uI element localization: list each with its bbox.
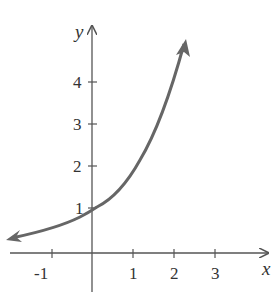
- y-tick-label: 4: [73, 73, 82, 92]
- x-tick-label: 2: [170, 264, 179, 283]
- x-tick-label: -1: [34, 264, 48, 283]
- exponential-curve: [14, 44, 184, 238]
- y-axis-label: y: [73, 21, 84, 42]
- curve-arrow-top-icon: [176, 39, 190, 57]
- x-axis-label: x: [261, 258, 271, 279]
- x-tick-label: 1: [129, 264, 138, 283]
- y-tick-label: 3: [73, 115, 82, 134]
- graph: -1 1 2 3 1 2 3 4 x y: [0, 0, 275, 292]
- y-tick-label: 2: [73, 157, 82, 176]
- x-tick-label: 3: [211, 264, 220, 283]
